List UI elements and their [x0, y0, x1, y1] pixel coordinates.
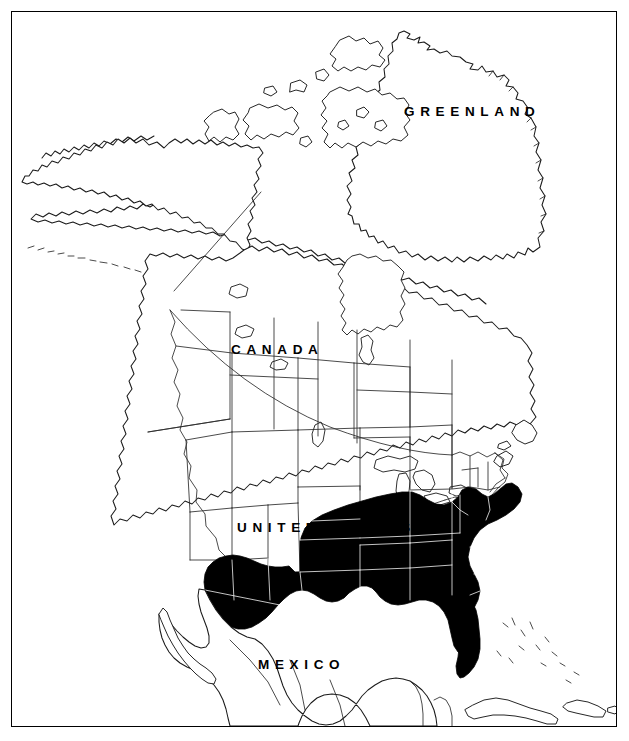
hudson-bay	[338, 254, 405, 335]
hispaniola-island	[563, 700, 606, 717]
jamaica-island	[519, 728, 536, 737]
arctic-island-small-2	[316, 69, 329, 81]
lake-huron	[413, 470, 435, 492]
banks-island	[204, 109, 239, 142]
arctic-island-small-5	[300, 136, 312, 147]
bahamas-islands	[497, 618, 579, 683]
cuba-island	[465, 698, 558, 724]
puerto-rico-island	[608, 706, 619, 714]
lake-superior	[374, 456, 418, 472]
ellesmere-island	[330, 36, 385, 71]
arctic-island-small-1	[290, 80, 307, 92]
aleutian-islands	[28, 246, 141, 272]
country-label-canada: CANADA	[231, 343, 324, 357]
victoria-island	[243, 104, 299, 140]
canada-mainland	[111, 246, 536, 525]
country-label-greenland: GREENLAND	[404, 105, 541, 119]
country-label-united-states: UNITED STATES	[237, 521, 416, 535]
country-label-mexico: MEXICO	[258, 658, 345, 672]
map-figure: GREENLAND CANADA UNITED STATES MEXICO	[0, 0, 629, 741]
alaska-main-outline	[22, 138, 263, 251]
arctic-island-small-3	[264, 86, 277, 96]
prince-edward-island	[498, 441, 511, 450]
